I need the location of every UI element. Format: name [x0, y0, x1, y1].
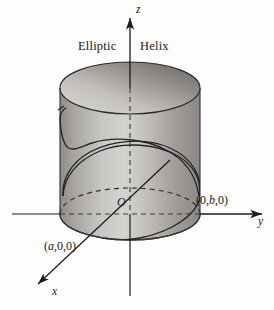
point-y-prefix: (0, [196, 193, 209, 207]
y-axis-label: y [258, 216, 263, 228]
elliptic-helix-figure: Elliptic Helix z y x O (0,b,0) (a,0,0) [0, 0, 274, 310]
point-label-x-intercept: (a,0,0) [44, 240, 76, 252]
figure-canvas [0, 0, 274, 310]
x-axis-label: x [52, 286, 57, 298]
z-axis-label: z [136, 4, 140, 16]
figure-title-part-1: Elliptic [78, 40, 116, 53]
point-y-suffix: ,0) [215, 193, 228, 207]
figure-title-part-2: Helix [140, 40, 169, 53]
origin-label: O [117, 196, 126, 208]
point-label-y-intercept: (0,b,0) [196, 194, 228, 206]
point-x-suffix: ,0,0) [54, 239, 76, 253]
